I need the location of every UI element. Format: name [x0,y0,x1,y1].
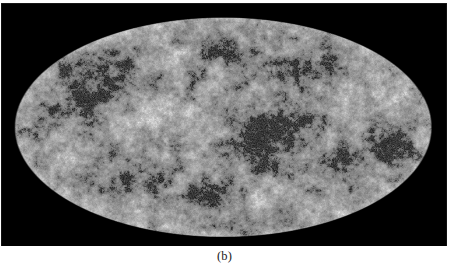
cmb-allsky-map [14,17,432,237]
panel-caption: (b) [0,248,449,264]
figure-panel-b: (b) [0,0,449,268]
image-panel [1,3,447,246]
panel-right-edge [446,3,447,246]
panel-left-edge [1,3,2,246]
ellipse-sky-icon [14,17,432,237]
panel-top-edge [1,3,447,4]
